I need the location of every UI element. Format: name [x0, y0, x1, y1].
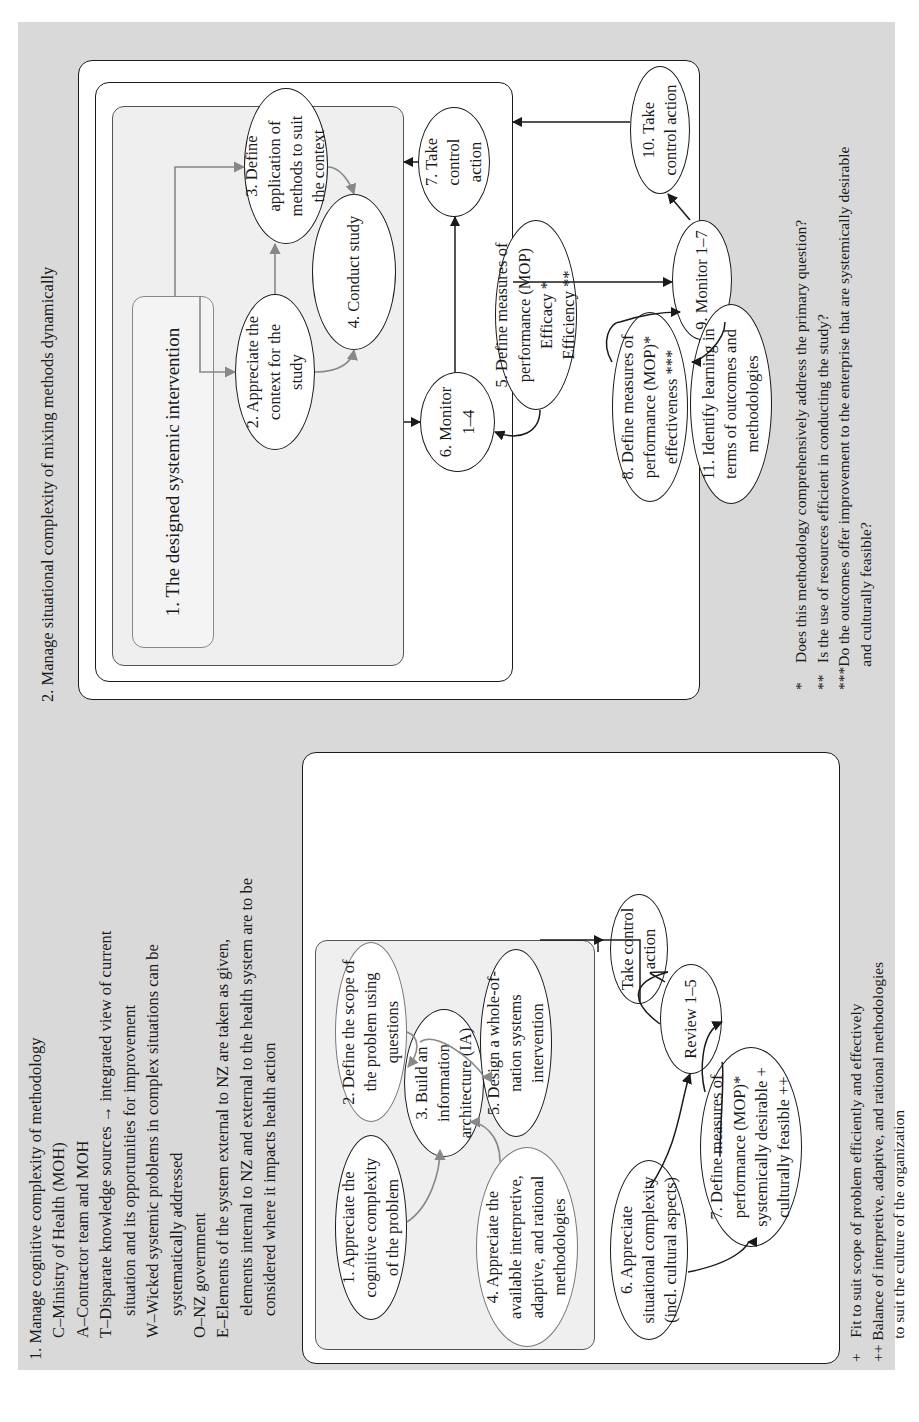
node-label: 6. Appreciate situational complexity (in…: [616, 1176, 683, 1323]
s2-node-take-control-7: 7. Take control action: [418, 107, 490, 217]
node-label: 11. Identify learning in terms of outcom…: [698, 328, 765, 480]
footnote: and culturally feasible?: [855, 147, 877, 690]
node-label: 9. Monitor 1–7: [691, 230, 713, 329]
node-label: 5. Design a whole-of- nation systems int…: [483, 971, 550, 1115]
s2-node-designed-intervention: 1. The designed systemic intervention: [132, 296, 214, 648]
footnote: ***Do the outcomes offer improvement to …: [833, 147, 855, 690]
s2-node-appreciate-context: 2. Appreciate the context for the study: [235, 294, 315, 450]
s1-node-define-scope: 2. Define the scope of the problem using…: [335, 942, 407, 1122]
catwoe-line: systematically addressed: [165, 878, 188, 1360]
node-label: 6. Monitor 1–4: [435, 387, 480, 458]
catwoe-line: E–Elements of the system external to NZ …: [211, 878, 234, 1360]
s2-node-define-mop-efficacy: 5. Define measures of performance (MOP) …: [495, 220, 577, 410]
s1-node-appreciate-cognitive: 1. Appreciate the cognitive complexity o…: [335, 1135, 407, 1320]
node-label: 5. Define measures of performance (MOP) …: [491, 243, 580, 388]
s1-node-take-control: Take control action: [610, 894, 668, 1004]
node-label: 2. Define the scope of the problem using…: [338, 959, 405, 1104]
s1-node-define-mop: 7. Define measures of performance (MOP)*…: [700, 1047, 802, 1247]
footnote: * Does this methodology comprehensively …: [790, 147, 812, 690]
footnote: to suit the culture of the organization: [888, 962, 910, 1362]
footnote: ** Is the use of resources efficient in …: [812, 147, 834, 690]
s1-node-build-ia: 3. Build an information architecture (IA…: [404, 1009, 484, 1157]
catwoe-line: T–Disparate knowledge sources → integrat…: [94, 878, 117, 1360]
node-label: 3. Define application of methods to suit…: [241, 116, 330, 217]
node-label: 7. Take control action: [421, 138, 488, 186]
node-label: 1. The designed systemic intervention: [162, 328, 184, 616]
node-label: 8. Define measures of performance (MOP)*…: [617, 335, 684, 480]
catwoe-line: elements internal to NZ and external to …: [235, 878, 258, 1360]
node-label: 1. Appreciate the cognitive complexity o…: [338, 1158, 405, 1298]
s1-node-review: Review 1–5: [660, 964, 722, 1074]
node-label: 4. Appreciate the available interpretive…: [482, 1175, 571, 1319]
node-label: 10. Take control action: [638, 84, 683, 175]
node-label: 4. Conduct study: [343, 216, 365, 328]
s2-node-monitor-1-4: 6. Monitor 1–4: [420, 372, 495, 472]
catwoe-line: situation and its opportunities for impr…: [118, 878, 141, 1360]
diagram-canvas: 1. Manage cognitive complexity of method…: [0, 0, 919, 1422]
s1-node-appreciate-methodologies: 4. Appreciate the available interpretive…: [476, 1147, 578, 1347]
s2-node-identify-learning: 11. Identify learning in terms of outcom…: [690, 304, 772, 504]
catwoe-line: A–Contractor team and MOH: [71, 878, 94, 1360]
catwoe-line: C–Ministry of Health (MOH): [47, 878, 70, 1360]
catwoe-line: O–NZ government: [188, 878, 211, 1360]
s1-node-appreciate-situational: 6. Appreciate situational complexity (in…: [610, 1160, 688, 1340]
node-label: 2. Appreciate the context for the study: [242, 316, 309, 428]
footnote: + Fit to suit scope of problem efficient…: [845, 962, 867, 1362]
section1-footnotes: + Fit to suit scope of problem efficient…: [845, 962, 910, 1362]
section2-heading: 2. Manage situational complexity of mixi…: [36, 267, 59, 702]
node-label: Take control action: [617, 908, 662, 991]
section1-heading: 1. Manage cognitive complexity of method…: [24, 878, 47, 1360]
catwoe-line: W–Wicked systemic problems in complex si…: [141, 878, 164, 1360]
s2-node-conduct-study: 4. Conduct study: [312, 194, 396, 350]
s2-node-take-control-10: 10. Take control action: [630, 66, 690, 194]
s2-node-define-mop-effectiveness: 8. Define measures of performance (MOP)*…: [612, 312, 688, 502]
s1-node-design-intervention: 5. Design a whole-of- nation systems int…: [480, 949, 552, 1137]
footnote: ++ Balance of interpretive, adaptive, an…: [867, 962, 889, 1362]
s2-node-define-application: 3. Define application of methods to suit…: [244, 88, 328, 244]
node-label: 7. Define measures of performance (MOP)*…: [706, 1067, 795, 1227]
node-label: 3. Build an information architecture (IA…: [411, 1028, 478, 1138]
section2-footnotes: * Does this methodology comprehensively …: [790, 147, 877, 690]
catwoe-line: considered where it impacts health actio…: [258, 878, 281, 1360]
node-label: Review 1–5: [680, 979, 702, 1058]
section1-heading-block: 1. Manage cognitive complexity of method…: [24, 878, 282, 1360]
